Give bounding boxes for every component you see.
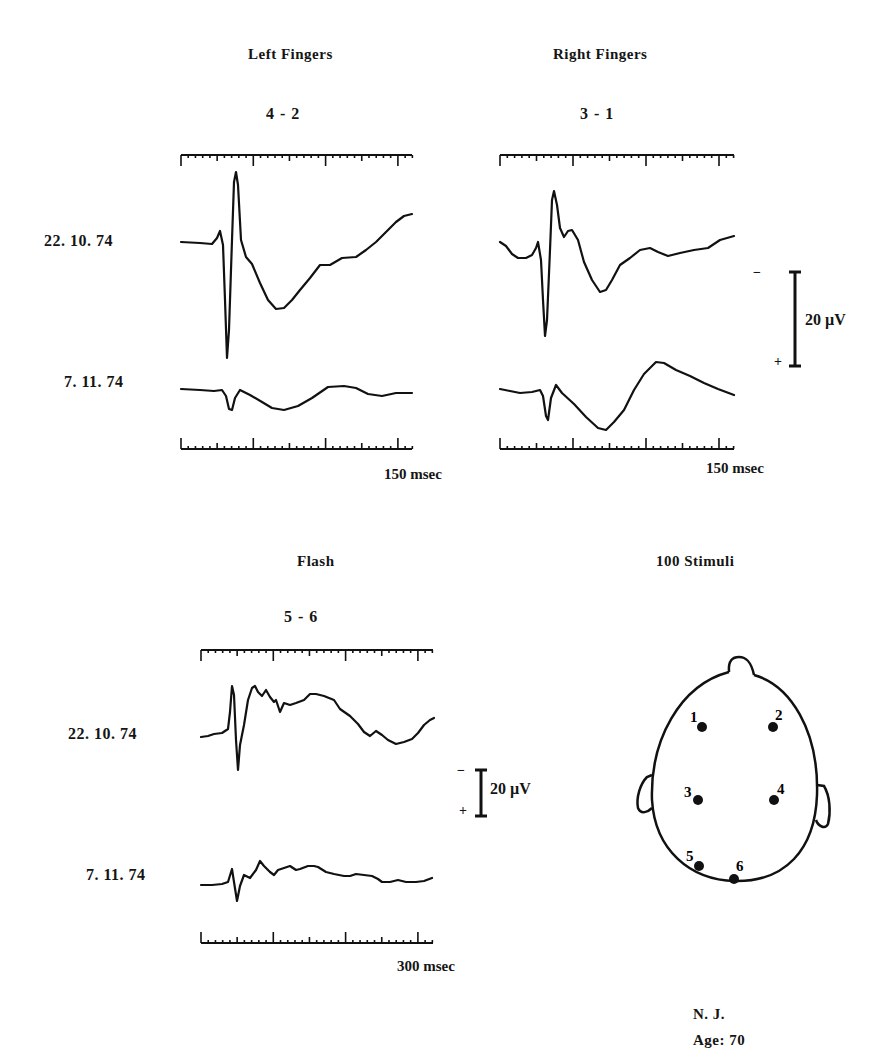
calibration-bar-1 <box>789 272 801 366</box>
ruler-top-right <box>500 155 734 166</box>
ruler-top-flash <box>201 650 433 661</box>
head-electrode-diagram <box>637 657 829 881</box>
trace-1-0 <box>500 191 734 336</box>
electrodes: 123456 <box>684 707 785 884</box>
electrode-label-3: 3 <box>684 784 692 800</box>
ruler-bottom-flash <box>201 932 433 943</box>
ruler-bottom-left <box>181 438 412 449</box>
electrode-5 <box>694 861 704 871</box>
trace-2-0 <box>201 686 434 770</box>
trace-2-1 <box>201 861 432 901</box>
electrode-3 <box>693 795 703 805</box>
time-rulers <box>181 155 734 943</box>
left-ear-icon <box>637 775 652 812</box>
trace-0-0 <box>181 172 412 358</box>
electrode-label-2: 2 <box>775 707 783 723</box>
electrode-2 <box>768 722 778 732</box>
electrode-label-4: 4 <box>777 781 785 797</box>
electrode-6 <box>729 874 739 884</box>
electrode-1 <box>697 722 707 732</box>
nose-icon <box>729 657 754 675</box>
trace-0-1 <box>181 386 412 410</box>
electrode-label-5: 5 <box>686 848 694 864</box>
ruler-bottom-right <box>500 438 734 449</box>
electrode-label-1: 1 <box>690 709 698 725</box>
electrode-label-6: 6 <box>736 858 744 874</box>
head-outline <box>652 672 817 881</box>
figure-graphics: 123456 <box>0 0 887 1056</box>
ruler-top-left <box>181 155 412 166</box>
calibration-bar-2 <box>475 770 487 816</box>
trace-1-1 <box>500 362 734 430</box>
